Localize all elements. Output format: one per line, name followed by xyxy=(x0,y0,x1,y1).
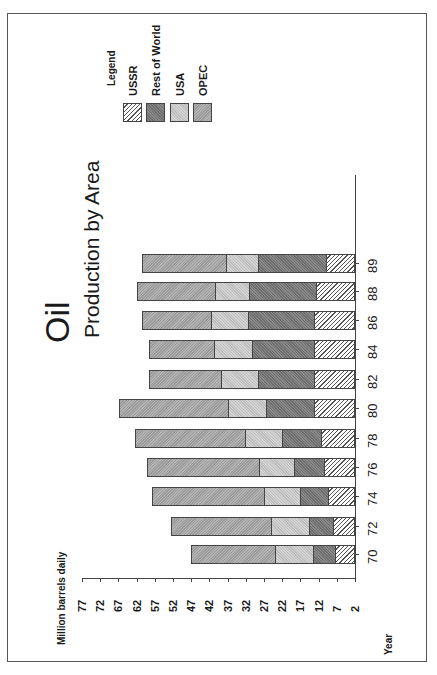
bar-segment-rest-of-world xyxy=(253,341,315,358)
tick-label: 47 xyxy=(185,600,197,612)
category-tick xyxy=(355,349,359,350)
bar-segment-usa xyxy=(229,400,267,417)
y-axis-label: Million barrels daily xyxy=(56,552,67,645)
tick-mark xyxy=(282,578,283,582)
stacked-bar-89 xyxy=(142,254,355,273)
legend-label-rest-of-world: Rest of World xyxy=(150,25,162,96)
tick-mark xyxy=(191,578,192,582)
year-label-74: 74 xyxy=(365,492,380,506)
bar-segment-ussr xyxy=(325,459,354,476)
tick-mark xyxy=(355,578,356,582)
tick-label: 52 xyxy=(167,600,179,612)
stacked-bar-78 xyxy=(135,429,355,448)
legend-swatch-opec xyxy=(193,103,212,122)
tick-mark xyxy=(228,578,229,582)
category-tick xyxy=(355,554,359,555)
year-label-76: 76 xyxy=(365,463,380,477)
bar-segment-opec xyxy=(153,488,265,505)
tick-label: 17 xyxy=(294,600,306,612)
bar-segment-rest-of-world xyxy=(259,255,328,272)
bar-segment-usa xyxy=(272,518,311,535)
tick-label: 12 xyxy=(313,600,325,612)
chart-title: Oil xyxy=(38,301,77,343)
tick-label: 22 xyxy=(276,600,288,612)
legend-title: Legend xyxy=(106,50,117,86)
tick-mark xyxy=(100,578,101,582)
bar-segment-rest-of-world xyxy=(250,283,317,300)
legend-swatch-ussr xyxy=(123,103,142,122)
category-tick xyxy=(355,320,359,321)
stacked-bar-80 xyxy=(119,399,355,418)
bar-segment-rest-of-world xyxy=(314,546,336,563)
tick-mark xyxy=(209,578,210,582)
tick-mark xyxy=(264,578,265,582)
category-tick xyxy=(355,379,359,380)
stacked-bar-72 xyxy=(171,517,355,536)
year-label-89: 89 xyxy=(365,259,380,273)
bar-segment-usa xyxy=(265,488,301,505)
tick-mark xyxy=(118,578,119,582)
bar-segment-opec xyxy=(143,255,227,272)
tick-label: 37 xyxy=(222,600,234,612)
bar-segment-rest-of-world xyxy=(301,488,329,505)
stacked-bar-86 xyxy=(142,311,355,330)
year-label-88: 88 xyxy=(365,287,380,301)
bar-segment-opec xyxy=(172,518,272,535)
category-tick xyxy=(355,467,359,468)
year-label-82: 82 xyxy=(365,375,380,389)
tick-mark xyxy=(137,578,138,582)
tick-label: 42 xyxy=(203,600,215,612)
stacked-bar-88 xyxy=(137,282,355,301)
bar-segment-opec xyxy=(138,283,216,300)
bar-segment-opec xyxy=(148,459,260,476)
bar-segment-opec xyxy=(150,341,215,358)
bar-segment-usa xyxy=(215,341,253,358)
bar-segment-usa xyxy=(246,430,283,447)
bar-segment-opec xyxy=(150,371,222,388)
chart-subtitle: Production by Area xyxy=(80,161,104,338)
tick-label: 27 xyxy=(258,600,270,612)
bar-segment-ussr xyxy=(315,371,354,388)
bar-segment-usa xyxy=(212,312,249,329)
tick-mark xyxy=(173,578,174,582)
bar-segment-ussr xyxy=(327,255,354,272)
category-tick xyxy=(355,263,359,264)
stacked-bar-70 xyxy=(191,545,355,564)
tick-mark xyxy=(300,578,301,582)
tick-mark xyxy=(337,578,338,582)
bar-segment-usa xyxy=(276,546,314,563)
bar-segment-rest-of-world xyxy=(249,312,315,329)
stacked-bar-74 xyxy=(152,487,355,506)
tick-mark xyxy=(319,578,320,582)
legend-label-opec: OPEC xyxy=(197,65,209,96)
legend-swatch-rest-of-world xyxy=(146,103,165,122)
bar-segment-opec xyxy=(192,546,276,563)
bar-segment-rest-of-world xyxy=(259,371,316,388)
bar-segment-rest-of-world xyxy=(267,400,316,417)
tick-label: 32 xyxy=(240,600,252,612)
bar-segment-ussr xyxy=(315,341,354,358)
year-label-78: 78 xyxy=(365,434,380,448)
year-label-70: 70 xyxy=(365,550,380,564)
value-axis xyxy=(82,578,356,579)
category-axis xyxy=(355,175,356,579)
bar-segment-ussr xyxy=(315,400,354,417)
year-label-80: 80 xyxy=(365,404,380,418)
category-tick xyxy=(355,496,359,497)
stacked-bar-76 xyxy=(147,458,355,477)
stacked-bar-84 xyxy=(149,340,355,359)
bar-segment-rest-of-world xyxy=(310,518,334,535)
bar-segment-ussr xyxy=(315,312,354,329)
year-label-72: 72 xyxy=(365,522,380,536)
bar-segment-opec xyxy=(136,430,246,447)
tick-mark xyxy=(82,578,83,582)
tick-mark xyxy=(246,578,247,582)
tick-label: 67 xyxy=(112,600,124,612)
tick-mark xyxy=(155,578,156,582)
legend-swatch-usa xyxy=(170,103,189,122)
category-tick xyxy=(355,526,359,527)
legend-label-usa: USA xyxy=(174,73,186,96)
bar-segment-ussr xyxy=(322,430,354,447)
x-axis-label: Year xyxy=(383,634,394,655)
year-label-86: 86 xyxy=(365,316,380,330)
